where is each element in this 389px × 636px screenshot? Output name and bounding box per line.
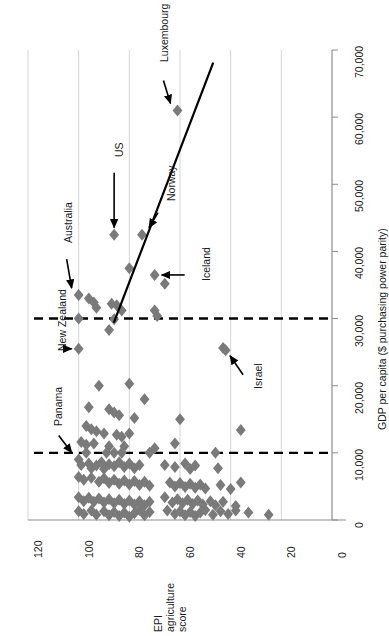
data-point xyxy=(81,447,91,459)
gridlines xyxy=(28,50,332,520)
epi-axis-title-line: agriculture xyxy=(164,583,176,632)
gdp-tick-label: 60,000 xyxy=(354,113,366,145)
gdp-tick-label: 70,000 xyxy=(354,46,366,78)
data-point xyxy=(173,104,183,116)
gdp-tick-label-zero: 0 xyxy=(354,522,366,528)
epi-axis-title-line: EPI xyxy=(152,583,164,632)
gdp-tick-label: 40,000 xyxy=(354,247,366,279)
epi-tick-label: 20 xyxy=(286,546,298,558)
data-point xyxy=(94,380,104,392)
data-point xyxy=(109,229,119,241)
annotation-arrow xyxy=(67,259,72,288)
annotation-label: US xyxy=(114,142,126,157)
data-point xyxy=(74,313,84,325)
annotation-label: New Zealand xyxy=(57,289,69,351)
epi-tick-label: 100 xyxy=(84,540,96,558)
epi-tick-label: 120 xyxy=(33,540,45,558)
epi-tick-label: 80 xyxy=(134,546,146,558)
epi-axis-title: EPIagriculturescore xyxy=(152,583,188,632)
data-point xyxy=(243,507,253,519)
axis-lines xyxy=(28,50,346,520)
epi-tick-label: 0 xyxy=(337,552,349,558)
annotation-label: Australia xyxy=(63,202,75,243)
data-point xyxy=(226,483,236,495)
data-point xyxy=(213,462,223,474)
annotation-arrow xyxy=(59,436,72,453)
epi-tick-label: 40 xyxy=(236,546,248,558)
data-point xyxy=(140,393,150,405)
annotation-label: Iceland xyxy=(201,247,213,281)
data-point xyxy=(211,447,221,459)
data-point xyxy=(170,437,180,449)
annotation-label: Israel xyxy=(253,363,265,389)
annotation-label: Norway xyxy=(166,165,178,201)
data-point xyxy=(99,427,109,439)
data-point xyxy=(124,378,134,390)
epi-axis-title-line: score xyxy=(176,583,188,632)
gdp-tick-label: 50,000 xyxy=(354,180,366,212)
data-point xyxy=(160,459,170,471)
data-point xyxy=(129,412,139,424)
data-point xyxy=(89,437,99,449)
data-point xyxy=(170,461,180,473)
gdp-axis-title: GDP per capita ($ purchasing power parit… xyxy=(377,228,389,430)
gdp-tick-label: 10,000 xyxy=(354,449,366,481)
data-point xyxy=(216,479,226,491)
annotation-arrow xyxy=(149,213,158,228)
data-point xyxy=(175,413,185,425)
data-point xyxy=(236,476,246,488)
data-point xyxy=(84,401,94,413)
data-point xyxy=(264,509,274,521)
data-point xyxy=(150,269,160,281)
data-point xyxy=(160,278,170,290)
gdp-tick-label: 20,000 xyxy=(354,382,366,414)
data-point xyxy=(104,324,114,336)
data-point xyxy=(74,289,84,301)
annotation-arrow xyxy=(230,356,243,375)
tick-marks xyxy=(332,50,338,520)
annotation-arrows xyxy=(59,80,243,452)
annotation-label: Luxembourg xyxy=(159,4,171,62)
annotation-arrow xyxy=(163,80,170,103)
data-point xyxy=(160,491,170,503)
annotation-label: Panama xyxy=(53,386,65,425)
data-point xyxy=(74,343,84,355)
data-point xyxy=(236,424,246,436)
gdp-tick-label: 30,000 xyxy=(354,314,366,346)
epi-tick-label: 60 xyxy=(185,546,197,558)
